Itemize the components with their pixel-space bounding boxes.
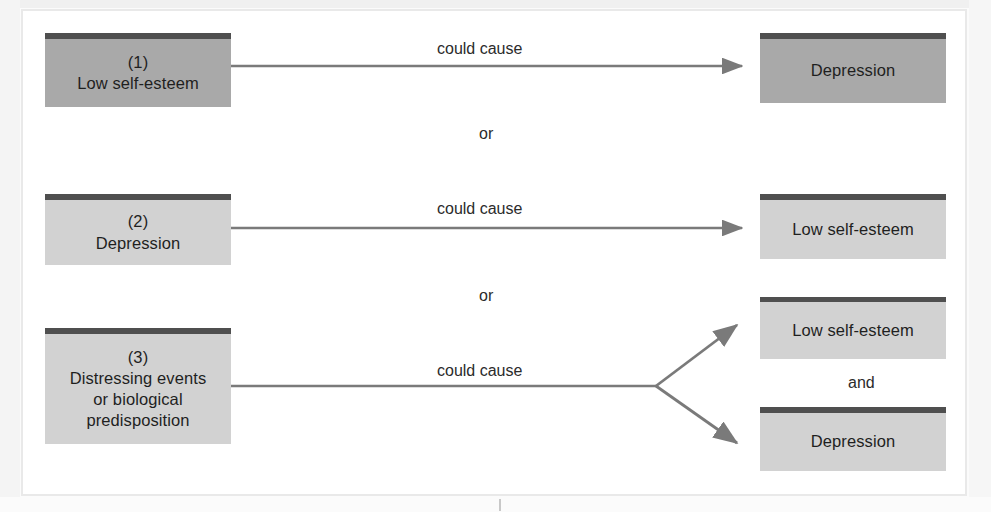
cause-box-1: (1) Low self-esteem <box>45 33 231 107</box>
cause-box-2-label: Depression <box>96 234 180 252</box>
cause-box-3: (3) Distressing events or biological pre… <box>45 328 231 444</box>
edge-label-could-cause-2: could cause <box>437 200 522 218</box>
cause-box-2-number: (2) <box>51 211 225 232</box>
cause-box-3-label-line2: or biological <box>93 390 182 408</box>
page-edge-right <box>969 0 991 512</box>
effect-box-3b: Depression <box>760 407 946 471</box>
cause-box-2: (2) Depression <box>45 194 231 265</box>
effect-box-3a: Low self-esteem <box>760 297 946 359</box>
edge-label-could-cause-3: could cause <box>437 362 522 380</box>
effect-box-1: Depression <box>760 33 946 103</box>
cause-box-3-label-line3: predisposition <box>86 411 189 429</box>
effect-box-2: Low self-esteem <box>760 194 946 259</box>
alternation-label-2: or <box>479 287 493 305</box>
page-edge-top <box>0 0 991 8</box>
page-edge-bottom <box>0 497 991 512</box>
edge-label-could-cause-1: could cause <box>437 40 522 58</box>
effect-box-1-label: Depression <box>811 61 895 79</box>
cause-box-3-number: (3) <box>51 347 225 368</box>
cause-box-1-number: (1) <box>51 52 225 73</box>
effect-box-3b-label: Depression <box>811 432 895 450</box>
effect-box-3a-label: Low self-esteem <box>792 321 914 339</box>
cause-box-3-label-line1: Distressing events <box>70 369 207 387</box>
cause-box-1-label: Low self-esteem <box>77 74 199 92</box>
conjunction-label: and <box>848 374 875 392</box>
effect-box-2-label: Low self-esteem <box>792 220 914 238</box>
page-edge-left <box>0 0 20 512</box>
page-registration-tick <box>499 499 501 511</box>
alternation-label-1: or <box>479 125 493 143</box>
